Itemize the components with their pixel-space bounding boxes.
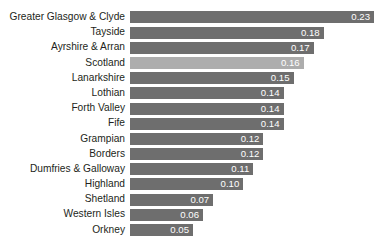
bar: 0.05 bbox=[130, 224, 193, 236]
bar-row: Forth Valley0.14 bbox=[0, 102, 379, 117]
bar-value-label: 0.14 bbox=[261, 118, 280, 130]
bar: 0.14 bbox=[130, 87, 284, 99]
category-label: Grampian bbox=[0, 133, 125, 145]
bar-value-label: 0.12 bbox=[241, 133, 260, 145]
bar-row: Grampian0.12 bbox=[0, 133, 379, 148]
bar: 0.14 bbox=[130, 118, 284, 130]
bar-row: Borders0.12 bbox=[0, 148, 379, 163]
category-label: Orkney bbox=[0, 224, 125, 236]
bar-row: Scotland0.16 bbox=[0, 57, 379, 72]
bar-row: Greater Glasgow & Clyde0.23 bbox=[0, 11, 379, 26]
bar-value-label: 0.06 bbox=[180, 209, 199, 221]
bar-value-label: 0.16 bbox=[281, 57, 300, 69]
category-label: Greater Glasgow & Clyde bbox=[0, 11, 125, 23]
bar: 0.14 bbox=[130, 103, 284, 115]
bar-value-label: 0.14 bbox=[261, 87, 280, 99]
category-label: Lothian bbox=[0, 87, 125, 99]
bar-row: Western Isles0.06 bbox=[0, 208, 379, 223]
category-label: Lanarkshire bbox=[0, 72, 125, 84]
bar-value-label: 0.05 bbox=[170, 224, 189, 236]
bar: 0.23 bbox=[130, 11, 374, 23]
category-label: Ayrshire & Arran bbox=[0, 41, 125, 53]
bar-row: Ayrshire & Arran0.17 bbox=[0, 41, 379, 56]
category-label: Tayside bbox=[0, 26, 125, 38]
category-label: Borders bbox=[0, 148, 125, 160]
bar-value-label: 0.18 bbox=[301, 27, 320, 39]
bar-row: Dumfries & Galloway0.11 bbox=[0, 163, 379, 178]
bar: 0.15 bbox=[130, 72, 294, 84]
bar-row: Lanarkshire0.15 bbox=[0, 72, 379, 87]
bar-value-label: 0.14 bbox=[261, 103, 280, 115]
bar-value-label: 0.11 bbox=[231, 163, 249, 175]
category-label: Fife bbox=[0, 117, 125, 129]
bar-value-label: 0.10 bbox=[221, 178, 240, 190]
bar-value-label: 0.17 bbox=[291, 42, 310, 54]
category-label: Forth Valley bbox=[0, 102, 125, 114]
bar: 0.06 bbox=[130, 209, 203, 221]
bar-value-label: 0.15 bbox=[271, 72, 290, 84]
bar: 0.11 bbox=[130, 163, 253, 175]
bar-row: Highland0.10 bbox=[0, 178, 379, 193]
chart-plot-area: Greater Glasgow & Clyde0.23Tayside0.18Ay… bbox=[0, 11, 379, 239]
bar-highlighted: 0.16 bbox=[130, 57, 304, 69]
bar-chart: Greater Glasgow & Clyde0.23Tayside0.18Ay… bbox=[0, 0, 379, 251]
category-label: Scotland bbox=[0, 57, 125, 69]
bar-row: Fife0.14 bbox=[0, 117, 379, 132]
bar: 0.10 bbox=[130, 178, 243, 190]
category-label: Highland bbox=[0, 178, 125, 190]
bar-row: Lothian0.14 bbox=[0, 87, 379, 102]
bar-row: Shetland0.07 bbox=[0, 193, 379, 208]
bar-value-label: 0.07 bbox=[190, 194, 209, 206]
bar-value-label: 0.23 bbox=[351, 11, 370, 23]
bar-value-label: 0.12 bbox=[241, 148, 260, 160]
bar-row: Orkney0.05 bbox=[0, 224, 379, 239]
bar: 0.12 bbox=[130, 148, 263, 160]
category-label: Dumfries & Galloway bbox=[0, 163, 125, 175]
bar: 0.18 bbox=[130, 27, 324, 39]
bar: 0.12 bbox=[130, 133, 263, 145]
category-label: Western Isles bbox=[0, 208, 125, 220]
category-label: Shetland bbox=[0, 193, 125, 205]
bar: 0.17 bbox=[130, 42, 314, 54]
bar-row: Tayside0.18 bbox=[0, 26, 379, 41]
bar: 0.07 bbox=[130, 194, 213, 206]
